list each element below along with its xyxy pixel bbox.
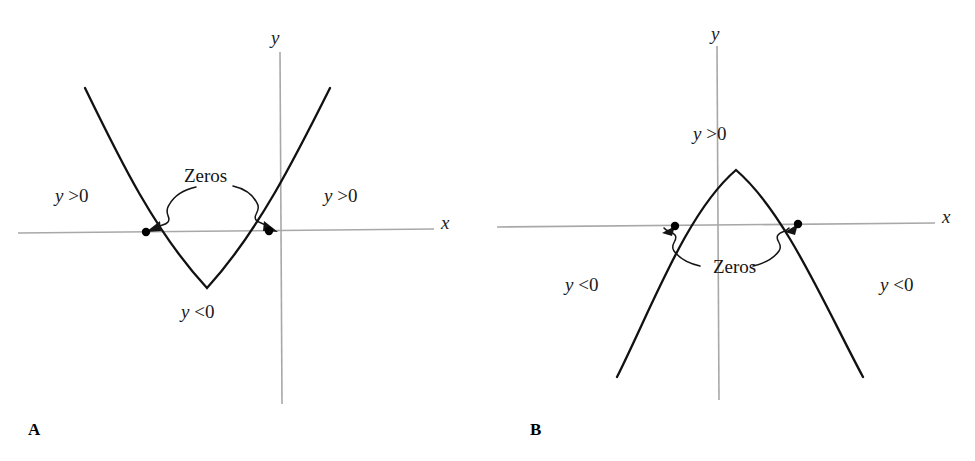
zero-point-left-b (671, 222, 679, 230)
region-left-label-a: y >0 (55, 186, 88, 205)
zeros-arrow-right-a (233, 186, 267, 227)
zero-point-right-a (265, 227, 273, 235)
y-axis-label-a: y (271, 28, 279, 47)
x-axis-label-a: x (441, 213, 449, 232)
zero-point-right-b (794, 220, 802, 228)
parabola-sign-figure: y x y >0 y >0 y <0 Zeros A y x (0, 0, 975, 461)
region-left-label-b: y <0 (565, 275, 598, 294)
x-axis-label-b: x (942, 207, 950, 226)
y-axis-line-b (717, 46, 719, 400)
y-axis-line-a (280, 52, 282, 404)
zeros-label-b: Zeros (713, 257, 756, 276)
panel-a: y x y >0 y >0 y <0 Zeros A (0, 0, 487, 461)
x-axis-line-a (18, 229, 434, 233)
region-right-label-b: y <0 (880, 275, 913, 294)
panel-letter-a: A (28, 421, 40, 438)
zero-point-left-a (142, 228, 150, 236)
panel-a-graph (0, 0, 487, 461)
parabola-curve-a (85, 88, 330, 288)
panel-b-graph (487, 0, 975, 461)
region-middle-label-a: y <0 (181, 302, 214, 321)
panel-b: y x y >0 y <0 y <0 Zeros B (487, 0, 975, 461)
zeros-arrow-left-a (157, 187, 196, 228)
x-axis-line-b (497, 223, 935, 227)
panel-letter-b: B (530, 421, 541, 438)
zeros-label-a: Zeros (184, 166, 227, 185)
region-middle-label-b: y >0 (693, 124, 726, 143)
zeros-arrow-right-b (753, 228, 789, 266)
y-axis-label-b: y (711, 24, 719, 43)
region-right-label-a: y >0 (324, 186, 357, 205)
